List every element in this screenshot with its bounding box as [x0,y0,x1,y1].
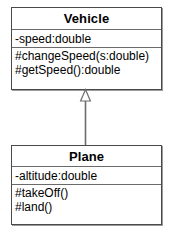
class-attributes-compartment-plane: -altitude:double [12,166,161,184]
class-operation: #getSpeed():double [15,63,161,77]
class-name-compartment-plane: Plane [12,146,161,166]
uml-class-diagram: Vehicle -speed:double #changeSpeed(s:dou… [0,0,172,239]
class-name-compartment-vehicle: Vehicle [12,8,161,29]
class-name-plane: Plane [69,149,104,164]
class-attribute: -speed:double [15,32,161,46]
class-attributes-compartment-vehicle: -speed:double [12,29,161,47]
class-box-vehicle[interactable]: Vehicle -speed:double #changeSpeed(s:dou… [11,7,162,90]
hollow-triangle-arrowhead-icon [81,90,91,102]
class-operations-compartment-vehicle: #changeSpeed(s:double) #getSpeed():doubl… [12,47,161,77]
class-box-plane[interactable]: Plane -altitude:double #takeOff() #land(… [11,145,162,225]
class-operation: #takeOff() [15,186,161,200]
class-attribute: -altitude:double [15,169,161,183]
generalization-connector[interactable] [78,88,94,146]
class-operation: #changeSpeed(s:double) [15,49,161,63]
class-name-vehicle: Vehicle [64,11,110,26]
class-operation: #land() [15,200,161,214]
class-operations-compartment-plane: #takeOff() #land() [12,184,161,214]
